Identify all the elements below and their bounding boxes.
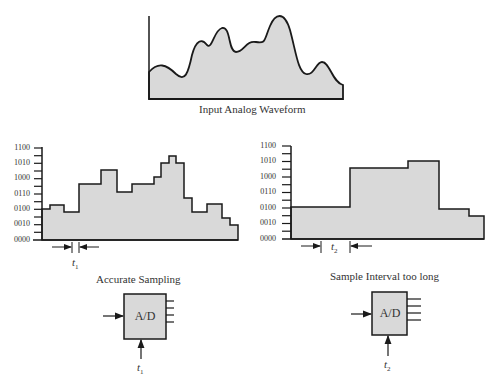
interval-t1-marker xyxy=(52,242,99,253)
analog-waveform-chart xyxy=(149,16,343,99)
y-tick-label: 0000 xyxy=(0,235,30,244)
long-interval-steps xyxy=(291,161,484,239)
analog-waveform-title: Input Analog Waveform xyxy=(199,103,305,115)
y-tick-label: 1000 xyxy=(0,173,30,182)
adc-block-left xyxy=(103,294,174,359)
y-tick-label: 1000 xyxy=(242,172,276,181)
y-tick-label: 1100 xyxy=(0,143,30,152)
accurate-sampling-steps xyxy=(42,156,238,240)
y-tick-label: 0010 xyxy=(0,219,30,228)
long-interval-caption: Sample Interval too long xyxy=(330,270,439,282)
clock-t2-label: t2 xyxy=(384,358,391,373)
y-tick-label: 1100 xyxy=(242,141,276,150)
clock-t1-label: t1 xyxy=(137,361,144,376)
accurate-sampling-chart xyxy=(33,147,238,253)
y-ticks xyxy=(282,146,291,231)
adc-label-left: A/D xyxy=(119,309,171,324)
y-tick-label: 1010 xyxy=(242,156,276,165)
y-tick-label: 0110 xyxy=(242,187,276,196)
y-tick-label: 0100 xyxy=(0,204,30,213)
interval-t1-label: t1 xyxy=(72,256,79,271)
y-tick-label: 1010 xyxy=(0,158,30,167)
y-tick-label: 0010 xyxy=(242,218,276,227)
adc-label-right: A/D xyxy=(364,306,416,321)
y-ticks xyxy=(34,148,42,232)
adc-block-right xyxy=(351,292,421,356)
analog-waveform-area xyxy=(149,16,343,99)
y-tick-label: 0100 xyxy=(242,203,276,212)
interval-t2-label: t2 xyxy=(331,240,338,255)
y-tick-label: 0000 xyxy=(242,234,276,243)
long-interval-chart xyxy=(282,146,484,253)
accurate-sampling-caption: Accurate Sampling xyxy=(96,273,181,285)
y-tick-label: 0110 xyxy=(0,189,30,198)
